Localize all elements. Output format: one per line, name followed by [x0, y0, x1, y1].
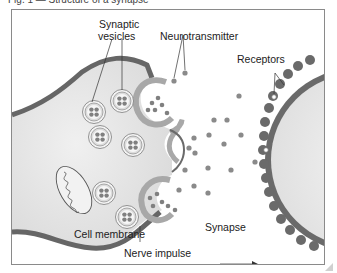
label-cell-membrane: Cell membrane [74, 228, 145, 240]
label-receptors: Receptors [237, 53, 285, 65]
figure-caption: Fig. 1 — Structure of a synapse [8, 0, 149, 5]
neurotransmitter-molecules [171, 70, 257, 195]
label-nerve-impulse: Nerve impulse [124, 247, 191, 259]
label-neurotransmitter: Neurotransmitter [160, 30, 238, 42]
page-curl-corner [325, 263, 333, 271]
postsynaptic-cell [258, 55, 325, 252]
presynaptic-terminal [12, 58, 184, 248]
label-synaptic-vesicles-line2: vesicles [98, 30, 135, 42]
synapse-illustration [12, 10, 325, 265]
label-synapse: Synapse [205, 221, 246, 233]
label-synaptic-vesicles-line1: Synaptic [99, 18, 139, 30]
diagram-frame: Synaptic vesicles Neurotransmitter Recep… [11, 9, 325, 265]
